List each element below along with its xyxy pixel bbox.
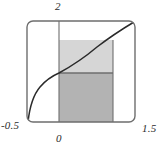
x-axis-origin-label: 0 [56,133,62,144]
y-axis-max-label: 2 [55,1,61,12]
x-axis-min-label: -0.5 [1,120,19,131]
lower-rectangle-shading [59,73,113,122]
x-axis-max-label: 1.5 [142,123,156,134]
plot-area [0,0,164,149]
chart-figure: 2 -0.5 0 1.5 [0,0,164,149]
